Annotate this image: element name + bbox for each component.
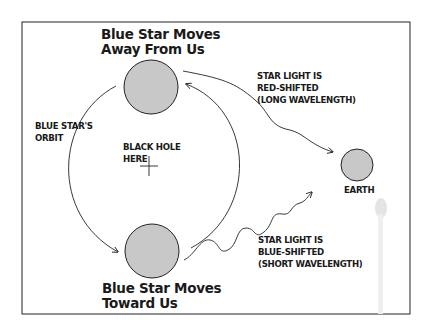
top-star-label-2: Away From Us xyxy=(101,41,205,57)
top-star-label-1: Blue Star Moves xyxy=(101,26,220,42)
red-shift-label-1: STAR LIGHT IS xyxy=(257,71,322,81)
orbit-label-2: ORBIT xyxy=(35,133,63,143)
earth-label: EARTH xyxy=(344,185,374,195)
bottom-star-label-1: Blue Star Moves xyxy=(102,280,221,296)
orbit-left-arc xyxy=(69,86,118,252)
orbit-label-1: BLUE STAR'S xyxy=(35,121,93,131)
blue-shift-label-3: (SHORT WAVELENGTH) xyxy=(258,259,363,269)
doppler-black-hole-diagram: Blue Star Moves Away From Us Blue Star M… xyxy=(0,0,430,331)
blue-shift-label-1: STAR LIGHT IS xyxy=(258,235,323,245)
bottom-star-label-2: Toward Us xyxy=(102,295,178,311)
scan-artifact-streak xyxy=(378,214,383,314)
blue-shift-label-2: BLUE-SHIFTED xyxy=(258,247,324,257)
red-shift-label-2: RED-SHIFTED xyxy=(257,83,319,93)
earth xyxy=(341,149,373,181)
black-hole-label-2: HERE xyxy=(123,154,148,164)
orbit-right-arc xyxy=(186,84,240,248)
blue-star-bottom xyxy=(125,224,179,278)
black-hole-label-1: BLACK HOLE xyxy=(123,142,181,152)
red-shift-label-3: (LONG WAVELENGTH) xyxy=(257,95,356,105)
blue-star-top xyxy=(124,60,178,114)
